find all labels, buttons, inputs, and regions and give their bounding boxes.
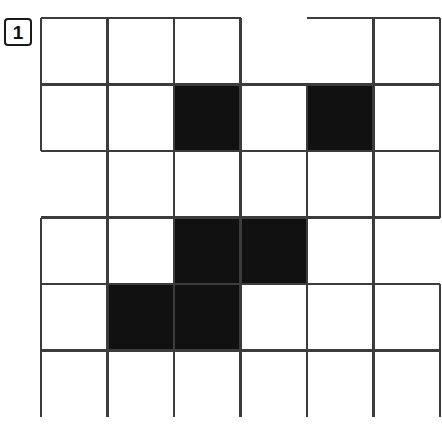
filled-cell[interactable]	[241, 218, 308, 285]
filled-cell[interactable]	[174, 85, 241, 152]
filled-cell[interactable]	[108, 284, 175, 351]
puzzle-grid[interactable]	[0, 0, 442, 425]
puzzle-page: 1	[0, 0, 442, 425]
grid-canvas	[0, 0, 442, 425]
filled-cell[interactable]	[174, 218, 241, 285]
filled-cell[interactable]	[174, 284, 241, 351]
grid-lines-layer	[41, 18, 440, 417]
filled-cell[interactable]	[307, 85, 374, 152]
